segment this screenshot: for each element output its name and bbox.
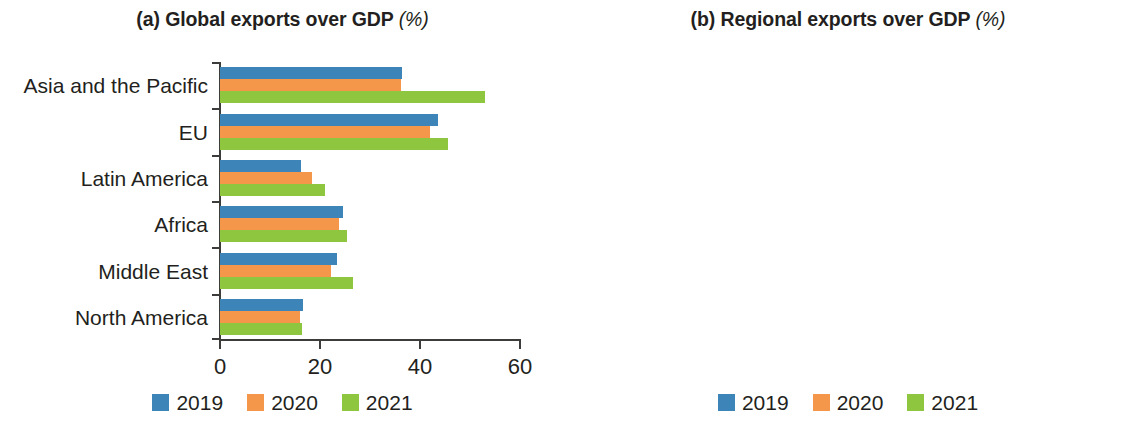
panel-b-title-text: (b) Regional exports over GDP (%) (691, 8, 1006, 30)
category-label: Africa (154, 214, 208, 235)
legend-a: 201920202021 (0, 392, 565, 413)
legend-swatch-2020 (247, 394, 264, 411)
legend-swatch-2019 (152, 394, 169, 411)
legend-label-2020: 2020 (271, 392, 318, 413)
category-label: Asia and the Pacific (24, 75, 208, 96)
x-axis-tick (419, 341, 421, 349)
bar-2020 (220, 311, 300, 323)
legend-label-2021: 2021 (931, 392, 978, 413)
legend-swatch-2021 (342, 394, 359, 411)
legend-item-2019[interactable]: 2019 (152, 392, 223, 413)
panel-a-title: (a) Global exports over GDP (%) (0, 8, 565, 31)
category-label: North America (75, 306, 208, 327)
bar-2019 (220, 299, 303, 311)
legend-label-2019: 2019 (176, 392, 223, 413)
legend-item-2020[interactable]: 2020 (813, 392, 884, 413)
bar-2021 (220, 184, 325, 196)
legend-item-2020[interactable]: 2020 (247, 392, 318, 413)
legend-label-2021: 2021 (366, 392, 413, 413)
legend-swatch-2020 (813, 394, 830, 411)
panel-a-title-text: (a) Global exports over GDP (%) (136, 8, 428, 30)
legend-label-2020: 2020 (837, 392, 884, 413)
bar-2020 (220, 79, 401, 91)
x-axis-tick (219, 341, 221, 349)
bar-2019 (220, 67, 402, 79)
bar-2020 (220, 126, 430, 138)
bar-2021 (220, 91, 485, 103)
bar-2019 (220, 206, 343, 218)
x-axis-tick (519, 341, 521, 349)
chart-panel-a: (a) Global exports over GDP (%) 0204060A… (0, 0, 565, 427)
bar-2021 (220, 230, 347, 242)
legend-item-2021[interactable]: 2021 (342, 392, 413, 413)
y-axis-tick (212, 247, 220, 249)
panel-title-unit: (%) (975, 8, 1005, 30)
bar-2021 (220, 323, 302, 335)
chart-panel-b: (b) Regional exports over GDP (%) 02040A… (565, 0, 1131, 427)
bar-2020 (220, 265, 331, 277)
legend-swatch-2019 (718, 394, 735, 411)
bar-2020 (220, 218, 339, 230)
plot-area-a: 0204060Asia and the PacificEULatin Ameri… (220, 62, 520, 340)
y-axis-tick (212, 338, 220, 340)
legend-item-2021[interactable]: 2021 (907, 392, 978, 413)
x-axis-tick-label: 40 (408, 354, 432, 380)
legend-label-2019: 2019 (742, 392, 789, 413)
x-axis-tick (319, 341, 321, 349)
category-label: Latin America (81, 167, 208, 188)
bar-2019 (220, 114, 438, 126)
y-axis-tick (212, 294, 220, 296)
x-axis-tick-label: 60 (508, 354, 532, 380)
bar-2019 (220, 253, 337, 265)
bar-2020 (220, 172, 312, 184)
bar-2021 (220, 138, 448, 150)
panel-b-title: (b) Regional exports over GDP (%) (565, 8, 1131, 31)
category-label: EU (179, 121, 208, 142)
panel-title-unit: (%) (399, 8, 429, 30)
y-axis-tick (212, 62, 220, 64)
x-axis-tick-label: 20 (308, 354, 332, 380)
bar-2021 (220, 277, 353, 289)
x-axis-tick-label: 0 (214, 354, 226, 380)
y-axis-tick (212, 108, 220, 110)
y-axis-tick (212, 155, 220, 157)
x-axis-line-a (219, 339, 521, 341)
category-label: Middle East (98, 260, 208, 281)
y-axis-tick (212, 201, 220, 203)
legend-swatch-2021 (907, 394, 924, 411)
figure-exports-over-gdp: (a) Global exports over GDP (%) 0204060A… (0, 0, 1131, 427)
legend-b: 201920202021 (565, 392, 1131, 413)
bar-2019 (220, 160, 301, 172)
legend-item-2019[interactable]: 2019 (718, 392, 789, 413)
